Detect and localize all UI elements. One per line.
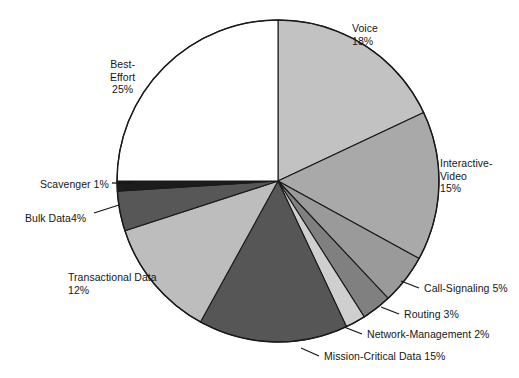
slice-label-line: 25%	[110, 83, 135, 96]
slice-label: Network-Management 2%	[367, 328, 489, 341]
slice-label: Interactive-Video15%	[440, 157, 493, 195]
slice-label-line: Bulk Data4%	[25, 212, 86, 225]
slice-label-line: Mission-Critical Data 15%	[324, 350, 445, 363]
pie-slices-group	[117, 20, 439, 342]
slice-label-line: Voice	[352, 22, 378, 35]
slice-label-line: Effort	[110, 71, 135, 84]
slice-label: Routing 3%	[404, 308, 459, 321]
slice-label-line: Routing 3%	[404, 308, 459, 321]
slice-label: Transactional Data12%	[68, 271, 157, 296]
slice-label: Bulk Data4%	[25, 212, 86, 225]
slice-label-line: Scavenger 1%	[40, 178, 109, 191]
slice-label: Mission-Critical Data 15%	[324, 350, 445, 363]
slice-label-line: 18%	[352, 35, 378, 48]
leader-line	[94, 205, 119, 213]
slice-label-line: Interactive-	[440, 157, 493, 170]
pie-slice[interactable]	[117, 20, 278, 181]
slice-label-line: Call-Signaling 5%	[424, 282, 508, 295]
leader-line	[301, 348, 319, 356]
pie-chart-figure: Voice18%Interactive-Video15%Call-Signali…	[0, 0, 519, 378]
slice-label: Call-Signaling 5%	[424, 282, 508, 295]
slice-label: Voice18%	[352, 22, 378, 47]
slice-label-line: Best-	[110, 58, 135, 71]
leader-line	[344, 327, 362, 334]
slice-label-line: 15%	[440, 182, 493, 195]
leader-line	[381, 307, 399, 314]
slice-label: Scavenger 1%	[40, 178, 109, 191]
slice-label: Best-Effort25%	[110, 58, 135, 96]
slice-label-line: Network-Management 2%	[367, 328, 489, 341]
slice-label-line: Video	[440, 170, 493, 183]
slice-label-line: 12%	[68, 284, 157, 297]
slice-label-line: Transactional Data	[68, 271, 157, 284]
